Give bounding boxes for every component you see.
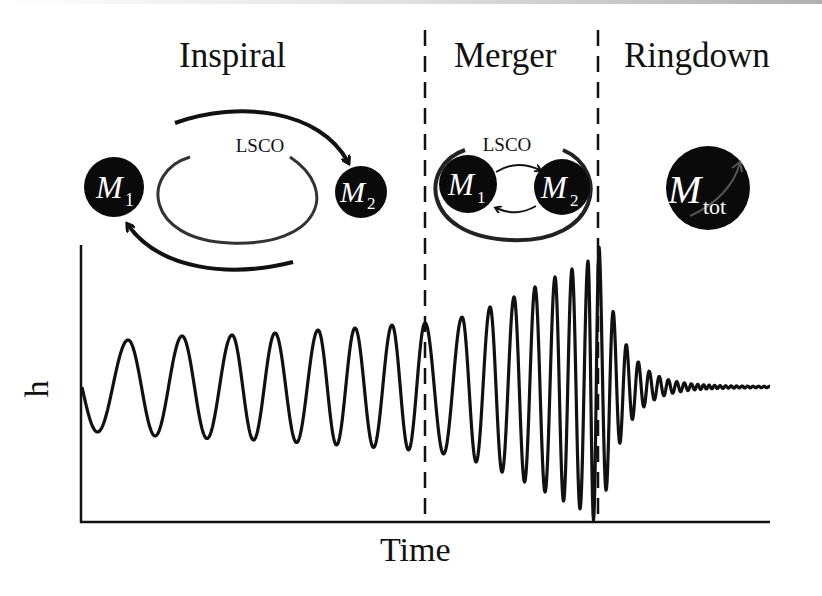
svg-text:M: M xyxy=(447,167,476,202)
mass-mtot-ringdown: M tot xyxy=(666,146,750,230)
mass-m2-inspiral: M 2 xyxy=(335,166,387,218)
mass-m1-inspiral: M 1 xyxy=(84,157,144,217)
svg-text:M: M xyxy=(540,170,569,205)
orbit-arrow-bottom xyxy=(128,225,293,270)
mass-m2-merger: M 2 xyxy=(534,159,590,215)
inspiral-orbit: LSCO xyxy=(128,111,348,269)
svg-text:tot: tot xyxy=(703,194,726,219)
svg-text:M: M xyxy=(339,175,367,208)
svg-text:M: M xyxy=(95,169,125,205)
svg-text:LSCO: LSCO xyxy=(483,134,532,155)
svg-text:1: 1 xyxy=(477,188,486,207)
diagram-canvas: LSCO M 1 M 2 LSCO M 1 M 2 M tot xyxy=(0,0,822,596)
mass-m1-merger: M 1 xyxy=(439,155,497,213)
svg-text:LSCO: LSCO xyxy=(236,135,285,156)
merger-arrow-top xyxy=(496,165,540,172)
svg-text:2: 2 xyxy=(570,191,579,210)
merger-arrow-bottom xyxy=(496,206,536,212)
y-axis-label: h xyxy=(20,381,54,398)
x-axis-label: Time xyxy=(380,533,451,567)
svg-text:1: 1 xyxy=(125,190,134,210)
svg-text:2: 2 xyxy=(367,194,376,213)
svg-text:M: M xyxy=(667,167,704,212)
